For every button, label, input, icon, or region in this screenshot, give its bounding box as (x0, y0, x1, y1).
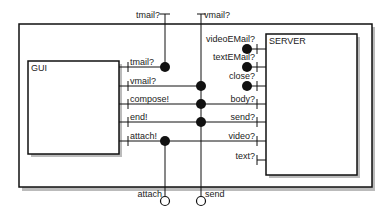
port-attach-external: attach (137, 189, 162, 199)
svg-text:attach!: attach! (130, 131, 157, 141)
server-component[interactable] (266, 34, 357, 175)
svg-text:send?: send? (230, 112, 255, 122)
component-diagram: GUI SERVER tmail? vmail? attach send tma… (0, 0, 392, 217)
gui-label: GUI (31, 63, 47, 73)
svg-text:text?: text? (235, 151, 255, 161)
svg-text:body?: body? (230, 94, 255, 104)
port-send-external: send (205, 189, 225, 199)
gui-component[interactable] (28, 61, 119, 154)
server-label: SERVER (269, 36, 306, 46)
svg-text:video?: video? (228, 131, 255, 141)
svg-text:compose!: compose! (130, 94, 169, 104)
port-vmail-external: vmail? (204, 10, 230, 20)
svg-text:end!: end! (130, 112, 148, 122)
svg-text:tmail?: tmail? (130, 57, 154, 67)
svg-text:textEMail?: textEMail? (213, 52, 255, 62)
port-tmail-external: tmail? (136, 10, 160, 20)
svg-text:videoEMail?: videoEMail? (206, 34, 255, 44)
svg-text:close?: close? (229, 71, 255, 81)
svg-text:vmail?: vmail? (130, 76, 156, 86)
